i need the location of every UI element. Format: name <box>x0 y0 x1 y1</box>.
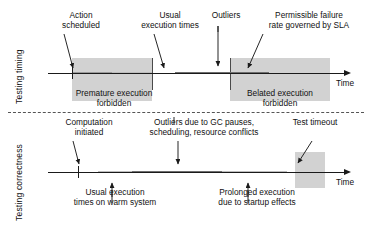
callout-permissible-failure-rate: Permissible failure rate governed by SLA <box>248 10 370 31</box>
callout-usual-execution-times-line2: execution times <box>141 20 199 30</box>
callout-premature-line2: forbidden <box>97 98 132 108</box>
callout-usual-execution-times-line1: Usual <box>159 10 180 20</box>
callout-outliers: Outliers <box>196 10 256 20</box>
figure-root: Testing timing Time Action scheduled Usu… <box>0 0 372 225</box>
usual-times-boundary-rule <box>152 58 153 90</box>
panel-correctness-side-label: Testing correctness <box>14 144 24 221</box>
callout-premature-line1: Premature execution <box>76 88 153 98</box>
test-timeout-band <box>295 152 325 188</box>
callout-outliers-gc-line1: Outliers due to GC pauses, <box>154 117 254 127</box>
callout-premature-execution-forbidden: Premature execution forbidden <box>60 88 168 109</box>
callout-startup-line2: due to startup effects <box>218 197 295 207</box>
correctness-axis-origin-tick <box>78 166 79 178</box>
callout-computation-initiated: Computation initiated <box>44 117 134 138</box>
timing-axis-arrow-icon <box>344 70 351 76</box>
callout-usual-execution-warm-system: Usual execution times on warm system <box>56 187 174 208</box>
callout-permissible-failure-rate-line2: rate governed by SLA <box>269 20 349 30</box>
callout-outliers-line1: Outliers <box>212 10 241 20</box>
callout-computation-initiated-line2: initiated <box>75 127 104 137</box>
callout-test-timeout-line1: Test timeout <box>293 117 338 127</box>
callout-permissible-failure-rate-line1: Permissible failure <box>275 10 343 20</box>
callout-outliers-gc-line2: scheduling, resource conflicts <box>150 127 259 137</box>
callout-belated-line2: forbidden <box>263 98 298 108</box>
panel-timing-side-label: Testing timing <box>14 49 24 104</box>
callout-computation-initiated-line1: Computation <box>65 117 112 127</box>
correctness-axis-label: Time <box>336 177 354 187</box>
timing-axis-line <box>48 73 345 74</box>
panel-testing-correctness: Testing correctness Time Computation ini… <box>0 113 372 225</box>
callout-belated-execution-forbidden: Belated execution forbidden <box>226 88 334 109</box>
callout-action-scheduled: Action scheduled <box>44 10 118 31</box>
correctness-axis-line <box>48 172 345 173</box>
timing-axis-label: Time <box>336 78 354 88</box>
callout-action-scheduled-line1: Action <box>69 10 92 20</box>
callout-warm-line1: Usual execution <box>85 187 144 197</box>
callout-belated-line1: Belated execution <box>247 88 313 98</box>
timing-axis-origin-tick <box>72 67 73 79</box>
callout-warm-line2: times on warm system <box>74 197 157 207</box>
callout-outliers-gc-pauses: Outliers due to GC pauses, scheduling, r… <box>124 117 284 138</box>
correctness-axis-arrow-icon <box>344 169 351 175</box>
panel-testing-timing: Testing timing Time Action scheduled Usu… <box>0 0 372 112</box>
callout-test-timeout: Test timeout <box>272 117 358 127</box>
callout-startup-line1: Prolonged execution <box>219 187 295 197</box>
callout-prolonged-execution-startup: Prolonged execution due to startup effec… <box>196 187 318 208</box>
callout-action-scheduled-line2: scheduled <box>62 20 100 30</box>
